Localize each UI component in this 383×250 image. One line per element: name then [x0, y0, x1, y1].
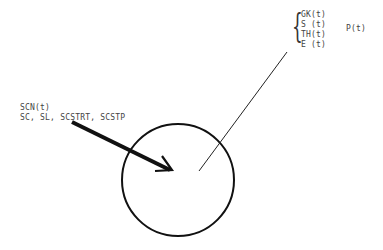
output-label-gk: GK(t): [301, 10, 326, 19]
output-label-th: TH(t): [301, 30, 326, 39]
output-label-s: S (t): [301, 20, 326, 29]
output-group-label: P(t): [346, 24, 366, 33]
system-circle: [122, 124, 234, 236]
input-label-params: SC, SL, SCSTRT, SCSTP: [20, 113, 125, 122]
output-line: [199, 52, 287, 171]
output-label-e: E (t): [301, 40, 326, 49]
input-label-scn: SCN(t): [20, 103, 50, 112]
